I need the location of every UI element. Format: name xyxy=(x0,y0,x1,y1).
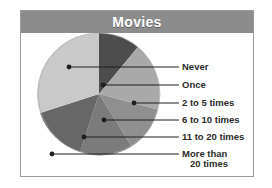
callout-label-6-to-10-times: 6 to 10 times xyxy=(182,115,240,125)
callout-label-2-to-5-times: 2 to 5 times xyxy=(182,98,234,108)
leader-dot-11-to-20-times xyxy=(82,135,87,140)
chart-title-banner: Movies xyxy=(21,11,253,33)
leader-dot-6-to-10-times xyxy=(102,118,107,123)
leader-dot-once xyxy=(101,83,106,88)
leader-dot-2-to-5-times xyxy=(132,101,137,106)
page-title: Movies xyxy=(112,14,161,30)
callout-label-11-to-20-times: 11 to 20 times xyxy=(182,132,244,142)
leader-dot-more-than-20-times xyxy=(50,152,55,157)
leader-dot-never xyxy=(67,65,72,70)
callout-label-group: Never Once 2 to 5 times 6 to 10 times 11… xyxy=(182,33,254,176)
callout-label-never: Never xyxy=(182,62,208,72)
callout-label-more-than-20-times: More than 20 times xyxy=(182,149,228,169)
chart-frame: Movies xyxy=(20,10,254,177)
callout-label-once: Once xyxy=(182,80,206,90)
